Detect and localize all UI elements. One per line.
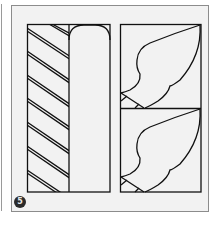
right-pattern <box>121 25 202 193</box>
wing-bottom-corner-line <box>121 180 127 185</box>
wing-top-outline <box>121 25 200 93</box>
arch-top <box>69 25 110 40</box>
wing-bottom-tail <box>145 109 200 192</box>
wing-top-base-line <box>121 93 144 108</box>
wing-bottom-base-line <box>121 177 144 192</box>
left-pattern <box>27 24 110 195</box>
pattern-drawing <box>0 0 216 225</box>
step-number-badge: 5 <box>14 196 26 208</box>
wing-top-foot-line <box>135 104 139 108</box>
wing-top-tail <box>145 25 200 108</box>
diagonal-stripes <box>27 24 73 195</box>
wing-bottom-outline <box>121 109 200 177</box>
wing-top-corner-line <box>121 96 127 101</box>
